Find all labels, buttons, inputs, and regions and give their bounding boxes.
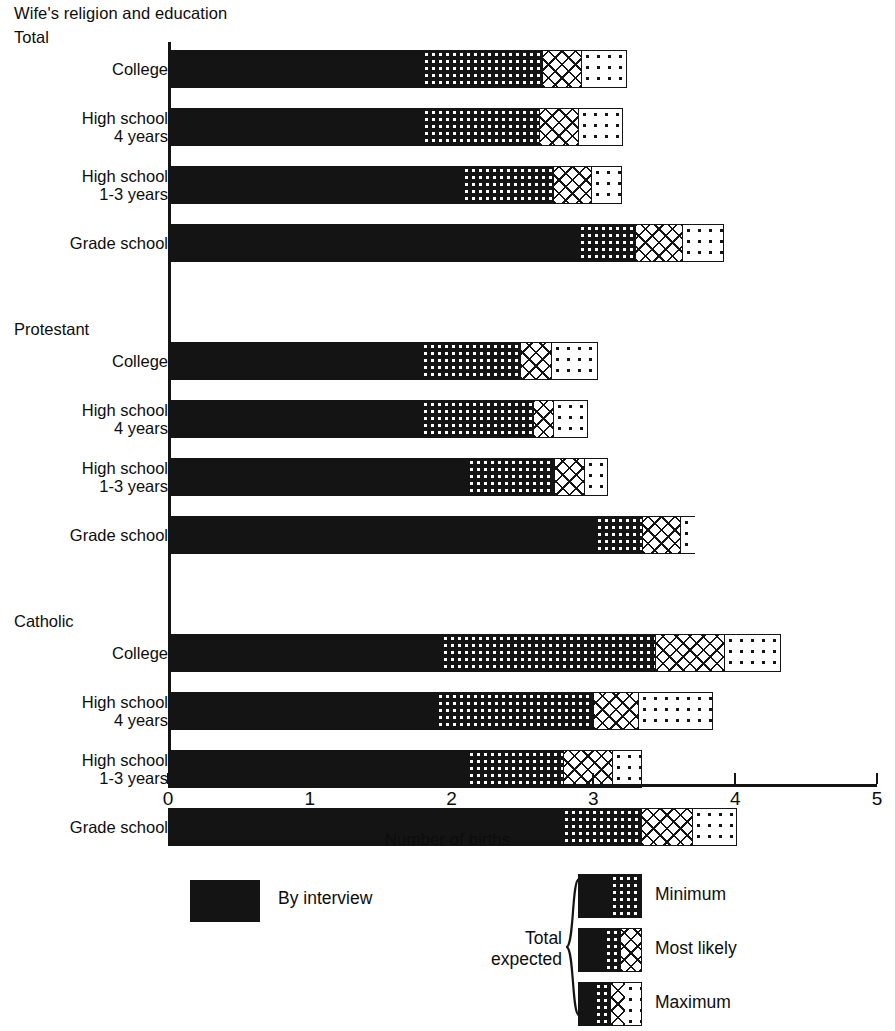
row-label: Grade school <box>70 526 168 544</box>
bar-row <box>168 50 627 88</box>
row-label: Grade school <box>70 234 168 252</box>
bar-segment-maximum <box>551 343 596 379</box>
bar-segment-minimum <box>423 109 539 145</box>
row-label-line1: High school <box>82 459 168 477</box>
axis-tick-label: 4 <box>730 788 741 810</box>
bar-segment-most-likely <box>563 751 612 787</box>
axis-tick-label: 5 <box>872 788 883 810</box>
bar-segment-by-interview <box>169 693 437 729</box>
axis-tick <box>876 773 878 784</box>
pattern-dense-dots <box>595 983 611 1025</box>
bar-segment-minimum <box>596 517 643 553</box>
axis-tick <box>592 773 594 784</box>
axis-left-cap <box>168 42 171 786</box>
bar-segment-minimum <box>468 751 563 787</box>
axis-tick-label: 2 <box>446 788 457 810</box>
bar-segment-minimum <box>468 459 554 495</box>
bar-segment-by-interview <box>169 167 463 203</box>
bar-segment-most-likely <box>533 401 553 437</box>
bar-segment-by-interview <box>169 751 468 787</box>
axis-tick <box>734 773 736 784</box>
axis-tick-label: 1 <box>305 788 316 810</box>
bar-row <box>168 750 642 788</box>
row-label: High school1-3 years <box>82 459 168 495</box>
bar-segment-maximum <box>680 517 694 553</box>
bar-segment-maximum <box>724 635 779 671</box>
bar-segment-by-interview <box>169 51 423 87</box>
row-label-line2: 4 years <box>82 127 168 145</box>
bar-segment-minimum <box>463 167 553 203</box>
bar-row <box>168 342 598 380</box>
pattern-solid-black <box>579 929 605 971</box>
row-label-line1: High school <box>82 693 168 711</box>
bar-segment-minimum <box>422 401 533 437</box>
axis-title: Number of births <box>0 830 895 850</box>
legend-label-by-interview: By interview <box>278 888 372 909</box>
legend-swatch-by-interview <box>190 880 260 922</box>
bar-segment-minimum <box>437 693 592 729</box>
pattern-solid-black <box>579 875 611 917</box>
legend-total-expected-line1: Total <box>438 928 562 949</box>
bar-segment-maximum <box>591 167 621 203</box>
bar-row <box>168 516 695 554</box>
row-label-line1: Grade school <box>70 234 168 252</box>
group-heading-protestant: Protestant <box>14 320 89 339</box>
row-label-line1: High school <box>82 167 168 185</box>
group-heading-total: Total <box>14 28 49 47</box>
bar-row <box>168 400 588 438</box>
axis-tick <box>167 773 169 784</box>
row-label-line1: Grade school <box>70 526 168 544</box>
group-heading-catholic: Catholic <box>14 612 74 631</box>
bar-segment-by-interview <box>169 459 468 495</box>
pattern-solid-black <box>191 881 259 921</box>
bar-segment-minimum <box>579 225 636 261</box>
pattern-crosshatch <box>621 929 641 971</box>
row-label: High school4 years <box>82 109 168 145</box>
bar-segment-minimum <box>423 51 542 87</box>
row-label-line2: 4 years <box>82 711 168 729</box>
axis-tick <box>309 773 311 784</box>
bar-segment-maximum <box>584 459 607 495</box>
bar-segment-maximum <box>638 693 711 729</box>
row-label: High school4 years <box>82 401 168 437</box>
row-label-line1: High school <box>82 401 168 419</box>
bar-segment-minimum <box>442 635 655 671</box>
bar-segment-most-likely <box>554 459 584 495</box>
pattern-dense-dots <box>611 875 641 917</box>
bar-segment-maximum <box>612 751 640 787</box>
bar-segment-by-interview <box>169 517 596 553</box>
bar-row <box>168 634 781 672</box>
row-label-line1: High school <box>82 109 168 127</box>
axis-tick <box>451 773 453 784</box>
row-label: College <box>112 644 168 662</box>
bar-row <box>168 224 724 262</box>
bar-segment-most-likely <box>553 167 591 203</box>
bar-segment-maximum <box>682 225 723 261</box>
bar-segment-most-likely <box>593 693 638 729</box>
legend-total-expected: Total expected <box>438 928 562 970</box>
row-label-line1: High school <box>82 751 168 769</box>
row-label: High school1-3 years <box>82 167 168 203</box>
bar-segment-minimum <box>422 343 521 379</box>
bar-segment-most-likely <box>520 343 551 379</box>
bar-segment-most-likely <box>539 109 579 145</box>
bar-segment-most-likely <box>642 517 680 553</box>
axis-tick-label: 0 <box>163 788 174 810</box>
bar-segment-maximum <box>581 51 626 87</box>
bar-segment-most-likely <box>635 225 682 261</box>
row-label-line2: 4 years <box>82 419 168 437</box>
bar-row <box>168 166 622 204</box>
legend-swatch-maximum <box>578 982 642 1026</box>
row-label: High school1-3 years <box>82 751 168 787</box>
bar-segment-most-likely <box>655 635 724 671</box>
bar-segment-by-interview <box>169 401 422 437</box>
row-label-line1: College <box>112 352 168 370</box>
legend-swatch-most-likely <box>578 928 642 972</box>
bar-row <box>168 458 608 496</box>
row-label: College <box>112 352 168 370</box>
bar-row <box>168 692 713 730</box>
row-label-line2: 1-3 years <box>82 769 168 787</box>
row-label-line1: College <box>112 60 168 78</box>
bar-segment-by-interview <box>169 635 442 671</box>
row-label-line2: 1-3 years <box>82 477 168 495</box>
